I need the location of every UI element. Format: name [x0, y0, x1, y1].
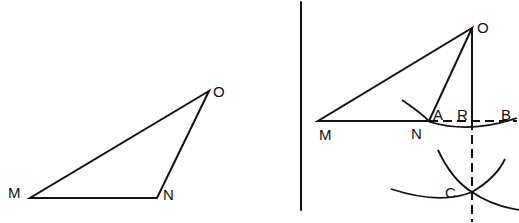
label-M-right: M [319, 126, 332, 143]
right-construction-figure: M N O A R B C [318, 19, 519, 222]
label-N-left: N [163, 186, 174, 203]
label-M-left: M [8, 184, 21, 201]
triangle-MNO-right [318, 28, 472, 121]
label-R: R [457, 106, 468, 123]
label-O-left: O [213, 83, 225, 100]
geometry-diagram: M N O M N O A R B C [0, 0, 519, 223]
label-C: C [445, 184, 456, 201]
triangle-MNO-left [30, 91, 209, 198]
label-B: B [501, 106, 511, 123]
label-O-right: O [477, 19, 489, 36]
label-A: A [433, 106, 443, 123]
arc-from-A [438, 150, 519, 210]
label-N-right: N [411, 125, 422, 142]
left-triangle-figure: M N O [8, 83, 225, 203]
